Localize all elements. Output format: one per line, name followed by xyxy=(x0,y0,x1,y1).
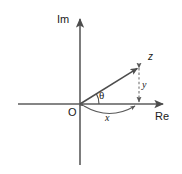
argand-diagram-canvas xyxy=(0,0,182,174)
imaginary-axis-label: Im xyxy=(57,14,69,25)
position-vector-line xyxy=(80,68,137,104)
angle-label-theta: θ xyxy=(99,90,104,101)
real-component-dimension xyxy=(84,106,135,114)
argand-diagram-figure: Im Re O z θ x y xyxy=(0,0,182,174)
real-axis-label: Re xyxy=(155,111,169,122)
origin-label: O xyxy=(68,107,77,118)
real-component-label-x: x xyxy=(105,113,109,123)
imaginary-component-label-y: y xyxy=(142,80,146,90)
complex-number-label-z: z xyxy=(148,52,153,62)
